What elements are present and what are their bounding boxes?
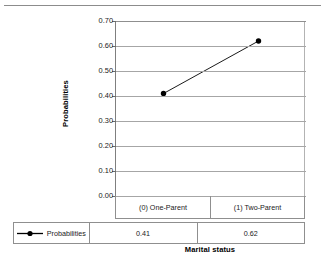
legend-line-marker-icon [17,229,43,238]
series-line [164,41,259,94]
y-axis-tick-label: 0.70 [87,17,116,24]
value-cell-1: 0.62 [197,223,304,243]
gridline [116,21,306,22]
series-line-probabilities [116,21,306,196]
data-table-row: Probabilities 0.41 0.62 [13,222,305,244]
top-divider-rule [4,5,321,6]
gridline [116,46,306,47]
y-axis-tick-label: 0.00 [87,192,116,199]
plot-area: 0.700.600.500.400.300.200.100.00 [115,21,305,196]
category-cell-1: (1) Two-Parent [210,196,304,218]
y-axis-tick-label: 0.50 [87,67,116,74]
value-cell-0: 0.41 [90,223,197,243]
legend-label: Probabilities [47,229,86,238]
gridline [116,146,306,147]
gridline [116,121,306,122]
gridline [116,171,306,172]
y-axis-tick-label: 0.60 [87,42,116,49]
data-point-1 [256,38,261,43]
legend-entry-probabilities: Probabilities [14,223,90,243]
y-axis-tick-label: 0.20 [87,142,116,149]
gridline [116,96,306,97]
y-axis-tick-label: 0.40 [87,92,116,99]
y-axis-tick-label: 0.10 [87,167,116,174]
x-axis-title: Marital status [115,245,305,254]
y-axis-tick-label: 0.30 [87,117,116,124]
y-axis-title-label: Probabilities [61,80,70,127]
category-cell-0: (0) One-Parent [116,196,210,218]
y-axis-title: Probabilities [58,72,72,134]
chart-figure: Probabilities 0.700.600.500.400.300.200.… [0,0,325,258]
category-header-row: (0) One-Parent (1) Two-Parent [115,196,305,219]
gridline [116,71,306,72]
